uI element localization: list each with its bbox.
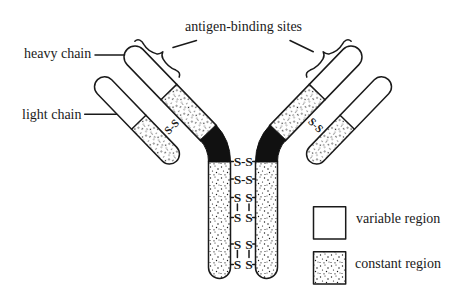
hinge-sulfur-left: S xyxy=(234,210,242,225)
constant-region-swatch xyxy=(314,252,346,284)
variable-region-swatch xyxy=(314,207,346,239)
constant-region-label: constant region xyxy=(355,256,441,271)
antigen-binding-sites-label: antigen-binding sites xyxy=(185,19,302,34)
right-heavy-chain-stem xyxy=(256,161,278,279)
hinge-sulfur-right: S xyxy=(245,172,253,187)
hinge-sulfur-right: S xyxy=(245,190,253,205)
hinge-sulfur-right: S xyxy=(245,210,253,225)
antibody-diagram: S-S S-S S - S S - S S S S S xyxy=(0,0,463,303)
hinge-sulfur-right: S xyxy=(245,257,253,272)
hinge-sulfur-left: S xyxy=(234,190,242,205)
hinge-sulfur-left: S xyxy=(234,237,242,252)
hinge-sulfur-right: S xyxy=(245,154,253,169)
heavy-chain-label: heavy chain xyxy=(24,46,91,61)
variable-region-label: variable region xyxy=(356,211,440,226)
hinge-sulfur-right: S xyxy=(245,237,253,252)
left-heavy-chain-stem xyxy=(209,161,231,279)
hinge-sulfur-left: S xyxy=(234,257,242,272)
light-chain-label: light chain xyxy=(22,107,82,122)
